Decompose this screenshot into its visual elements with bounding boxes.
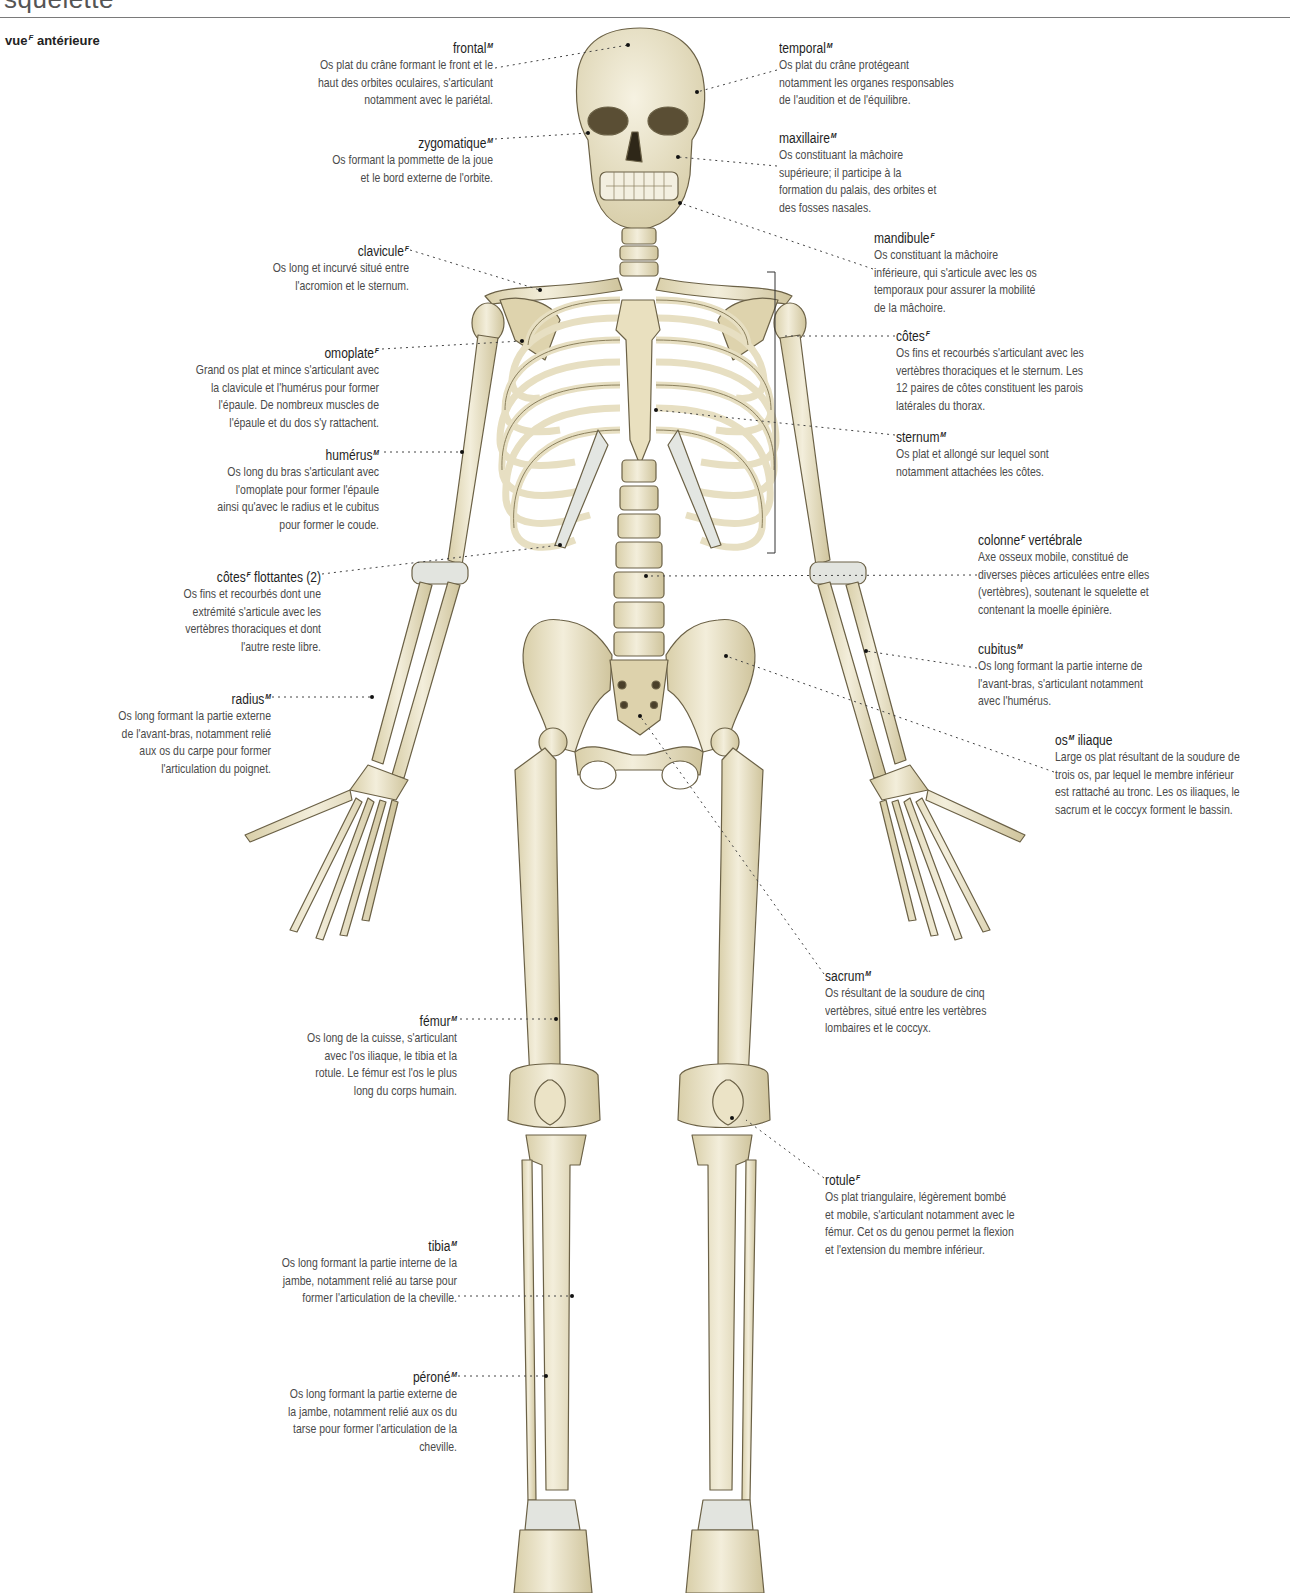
label-clavicule: claviculeF Os long et incurvé situé entr… <box>151 240 409 295</box>
label-colonne-vertebrale: colonneF vertébrale Axe osseux mobile, c… <box>978 529 1253 619</box>
gender-marker: M <box>865 969 871 978</box>
gender-marker: M <box>831 131 837 140</box>
gender-marker: M <box>827 41 833 50</box>
desc-perone: Os long formant la partie externe de la … <box>173 1386 457 1456</box>
skull <box>576 28 704 230</box>
desc-femur: Os long de la cuisse, s'articulant avec … <box>199 1030 457 1100</box>
gender-marker: F <box>856 1173 860 1182</box>
gender-marker: M <box>487 136 493 145</box>
term-tibia: tibia <box>428 1238 450 1254</box>
term-radius: radius <box>232 691 265 707</box>
label-omoplate: omoplateF Grand os plat et mince s'artic… <box>87 342 379 432</box>
term-colonne: colonne <box>978 532 1020 548</box>
desc-zygomatique: Os formant la pommette de la joue et le … <box>209 152 493 187</box>
gender-marker: F <box>926 329 930 338</box>
term-suffix: flottantes (2) <box>254 569 321 585</box>
gender-marker: M <box>1069 733 1075 742</box>
desc-clavicule: Os long et incurvé situé entre l'acromio… <box>151 260 409 295</box>
desc-sacrum: Os résultant de la soudure de cinq vertè… <box>825 985 1100 1038</box>
term-temporal: temporal <box>779 40 826 56</box>
gender-marker: M <box>451 1014 457 1023</box>
desc-tibia: Os long formant la partie interne de la … <box>173 1255 457 1308</box>
label-temporal: temporalM Os plat du crâne protégeant no… <box>779 37 1054 110</box>
term-cotes: côtes <box>896 328 925 344</box>
term-maxillaire: maxillaire <box>779 130 830 146</box>
term-omoplate: omoplate <box>324 345 374 361</box>
term-cotes-flottantes: côtes <box>217 569 246 585</box>
desc-sternum: Os plat et allongé sur lequel sont notam… <box>896 446 1171 481</box>
gender-marker: F <box>247 570 251 579</box>
label-humerus: humérusM Os long du bras s'articulant av… <box>87 444 379 534</box>
term-zygomatique: zygomatique <box>418 135 486 151</box>
label-femur: fémurM Os long de la cuisse, s'articulan… <box>199 1010 457 1100</box>
term-suffix: iliaque <box>1078 732 1113 748</box>
term-femur: fémur <box>420 1013 451 1029</box>
term-os-iliaque: os <box>1055 732 1068 748</box>
left-leg <box>508 728 600 1593</box>
desc-omoplate: Grand os plat et mince s'articulant avec… <box>87 362 379 432</box>
label-tibia: tibiaM Os long formant la partie interne… <box>173 1235 457 1308</box>
label-rotule: rotuleF Os plat triangulaire, légèrement… <box>825 1169 1117 1259</box>
label-frontal: frontalM Os plat du crâne formant le fro… <box>209 37 493 110</box>
term-perone: péroné <box>413 1369 450 1385</box>
desc-cotes-flottantes: Os fins et recourbés dont une extrémité … <box>46 586 321 656</box>
desc-frontal: Os plat du crâne formant le front et le … <box>209 57 493 110</box>
label-radius: radiusM Os long formant la partie extern… <box>13 688 271 778</box>
term-humerus: humérus <box>326 447 373 463</box>
desc-temporal: Os plat du crâne protégeant notamment le… <box>779 57 1054 110</box>
desc-rotule: Os plat triangulaire, légèrement bombé e… <box>825 1189 1117 1259</box>
term-mandibule: mandibule <box>874 230 930 246</box>
desc-radius: Os long formant la partie externe de l'a… <box>13 708 271 778</box>
desc-cubitus: Os long formant la partie interne de l'a… <box>978 658 1253 711</box>
gender-marker: M <box>373 448 379 457</box>
gender-marker: M <box>451 1239 457 1248</box>
label-cotes-flottantes: côtesF flottantes (2) Os fins et recourb… <box>46 566 321 656</box>
desc-humerus: Os long du bras s'articulant avec l'omop… <box>87 464 379 534</box>
sternum-bone <box>616 300 660 465</box>
label-cubitus: cubitusM Os long formant la partie inter… <box>978 638 1253 711</box>
term-clavicule: clavicule <box>358 243 404 259</box>
label-maxillaire: maxillaireM Os constituant la mâchoire s… <box>779 127 1054 217</box>
desc-mandibule: Os constituant la mâchoire inférieure, q… <box>874 247 1149 317</box>
term-suffix: vertébrale <box>1029 532 1083 548</box>
desc-maxillaire: Os constituant la mâchoire supérieure; i… <box>779 147 1054 217</box>
term-sacrum: sacrum <box>825 968 864 984</box>
gender-marker: M <box>487 41 493 50</box>
label-sternum: sternumM Os plat et allongé sur lequel s… <box>896 426 1171 481</box>
desc-os-iliaque: Large os plat résultant de la soudure de… <box>1055 749 1309 819</box>
label-zygomatique: zygomatiqueM Os formant la pommette de l… <box>209 132 493 187</box>
term-cubitus: cubitus <box>978 641 1016 657</box>
desc-cotes: Os fins et recourbés s'articulant avec l… <box>896 345 1188 415</box>
term-sternum: sternum <box>896 429 939 445</box>
label-mandibule: mandibuleF Os constituant la mâchoire in… <box>874 227 1149 317</box>
label-sacrum: sacrumM Os résultant de la soudure de ci… <box>825 965 1100 1038</box>
gender-marker: M <box>1017 642 1023 651</box>
gender-marker: M <box>451 1370 457 1379</box>
term-frontal: frontal <box>453 40 486 56</box>
desc-colonne: Axe osseux mobile, constitué de diverses… <box>978 549 1253 619</box>
gender-marker: M <box>940 430 946 439</box>
gender-marker: M <box>265 692 271 701</box>
lumbar-spine <box>614 460 664 656</box>
cervical-spine <box>620 228 658 276</box>
right-leg <box>678 728 770 1593</box>
label-cotes: côtesF Os fins et recourbés s'articulant… <box>896 325 1188 415</box>
gender-marker: F <box>375 346 379 355</box>
label-os-iliaque: osM iliaque Large os plat résultant de l… <box>1055 729 1309 819</box>
gender-marker: F <box>930 231 934 240</box>
gender-marker: F <box>1021 533 1025 542</box>
gender-marker: F <box>405 244 409 253</box>
label-perone: péronéM Os long formant la partie extern… <box>173 1366 457 1456</box>
term-rotule: rotule <box>825 1172 855 1188</box>
